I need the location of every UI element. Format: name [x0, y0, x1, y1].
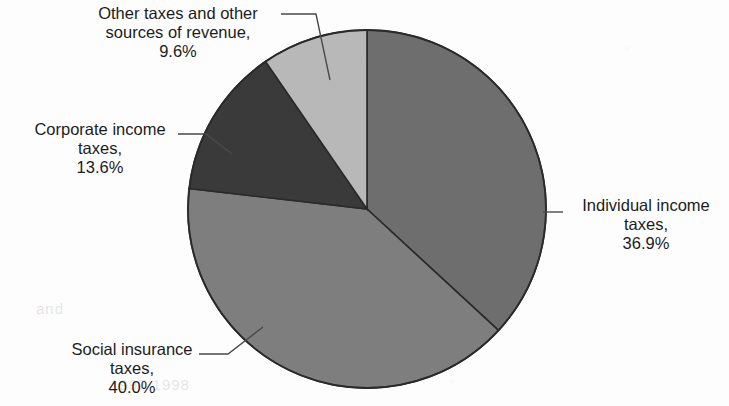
pie-label-other-taxes-line1: Other taxes and other [58, 4, 298, 23]
pie-label-other-taxes-line2: sources of revenue, [58, 23, 298, 42]
pie-chart-page: 1997 1998 and Other taxes and other sour… [0, 0, 729, 406]
pie-label-corporate-income-taxes-value: 13.6% [2, 158, 198, 177]
pie-label-individual-income-taxes-value: 36.9% [566, 234, 726, 253]
pie-label-corporate-income-taxes-line1: Corporate income [2, 120, 198, 139]
pie-label-individual-income-taxes-line2: taxes, [566, 215, 726, 234]
pie-label-social-insurance-taxes-value: 40.0% [44, 378, 220, 397]
pie-label-other-taxes: Other taxes and other sources of revenue… [58, 4, 298, 61]
pie-label-corporate-income-taxes-line2: taxes, [2, 139, 198, 158]
pie-label-individual-income-taxes-line1: Individual income [566, 196, 726, 215]
pie-label-corporate-income-taxes: Corporate income taxes, 13.6% [2, 120, 198, 177]
pie-label-social-insurance-taxes-line2: taxes, [44, 359, 220, 378]
pie-label-other-taxes-value: 9.6% [58, 42, 298, 61]
pie-label-individual-income-taxes: Individual income taxes, 36.9% [566, 196, 726, 253]
pie-label-social-insurance-taxes: Social insurance taxes, 40.0% [44, 340, 220, 397]
pie-label-social-insurance-taxes-line1: Social insurance [44, 340, 220, 359]
